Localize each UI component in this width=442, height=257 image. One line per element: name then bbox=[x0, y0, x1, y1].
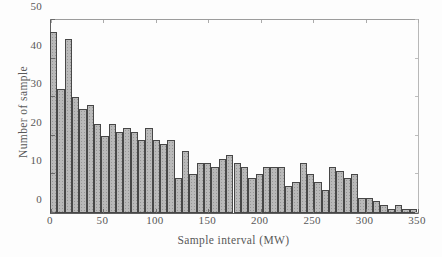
bars-container bbox=[51, 20, 418, 213]
x-tick-mark bbox=[366, 20, 367, 23]
histogram-bar bbox=[402, 209, 409, 213]
x-tick-label: 250 bbox=[303, 214, 320, 226]
y-tick-mark bbox=[415, 212, 418, 213]
x-tick-mark bbox=[51, 20, 52, 23]
x-tick-mark bbox=[313, 209, 314, 213]
x-tick-mark bbox=[418, 209, 419, 213]
histogram-bar bbox=[241, 167, 248, 213]
y-tick-label: 0 bbox=[36, 193, 42, 205]
y-axis-tick-labels: 01020304050 bbox=[0, 19, 46, 212]
x-tick-mark bbox=[418, 20, 419, 23]
x-tick-label: 100 bbox=[146, 214, 163, 226]
histogram-bar bbox=[57, 89, 64, 213]
x-tick-mark bbox=[208, 20, 209, 23]
histogram-bar bbox=[234, 163, 241, 213]
histogram-bar bbox=[307, 174, 314, 213]
y-tick-label: 20 bbox=[30, 116, 42, 128]
y-tick-label: 30 bbox=[30, 78, 42, 90]
x-tick-mark bbox=[156, 209, 157, 213]
histogram-bar bbox=[189, 174, 196, 213]
histogram-bar bbox=[160, 144, 167, 213]
y-tick-mark bbox=[415, 135, 418, 136]
x-tick-mark bbox=[261, 20, 262, 23]
x-tick-mark bbox=[313, 20, 314, 23]
y-tick-label: 10 bbox=[30, 155, 42, 167]
histogram-bar bbox=[123, 128, 130, 213]
x-axis-tick-labels: 050100150200250300350 bbox=[50, 214, 417, 228]
x-tick-label: 200 bbox=[251, 214, 268, 226]
y-tick-mark bbox=[51, 135, 55, 136]
y-tick-mark bbox=[415, 96, 418, 97]
histogram-bar bbox=[256, 174, 263, 213]
x-tick-mark bbox=[103, 209, 104, 213]
histogram-bar bbox=[131, 132, 138, 213]
histogram-bar bbox=[79, 109, 86, 213]
histogram-bar bbox=[175, 178, 182, 213]
histogram-bar bbox=[101, 136, 108, 213]
x-tick-mark bbox=[156, 20, 157, 23]
histogram-bar bbox=[344, 178, 351, 213]
y-tick-mark bbox=[415, 173, 418, 174]
histogram-bar bbox=[50, 32, 57, 213]
histogram-bar bbox=[167, 140, 174, 213]
x-tick-mark bbox=[366, 209, 367, 213]
x-tick-mark bbox=[208, 209, 209, 213]
y-tick-mark bbox=[51, 96, 55, 97]
histogram-bar bbox=[72, 97, 79, 213]
x-tick-mark bbox=[261, 209, 262, 213]
histogram-bar bbox=[322, 190, 329, 213]
histogram-bar bbox=[211, 167, 218, 213]
histogram-bar bbox=[138, 140, 145, 213]
y-tick-mark bbox=[415, 19, 418, 20]
histogram-bar bbox=[285, 186, 292, 213]
histogram-bar bbox=[380, 205, 387, 213]
x-tick-mark bbox=[103, 20, 104, 23]
plot-area bbox=[50, 19, 419, 214]
histogram-bar bbox=[153, 140, 160, 213]
histogram-bar bbox=[336, 171, 343, 213]
histogram-bar bbox=[300, 163, 307, 213]
histogram-bar bbox=[94, 124, 101, 213]
y-tick-mark bbox=[51, 19, 55, 20]
x-tick-label: 0 bbox=[47, 214, 53, 226]
x-tick-label: 350 bbox=[408, 214, 425, 226]
x-tick-label: 50 bbox=[97, 214, 109, 226]
y-tick-mark bbox=[415, 58, 418, 59]
histogram-bar bbox=[263, 167, 270, 213]
y-tick-label: 50 bbox=[30, 0, 42, 12]
histogram-bar bbox=[314, 182, 321, 213]
histogram-bar bbox=[219, 159, 226, 213]
y-tick-mark bbox=[51, 173, 55, 174]
x-axis-label: Sample interval (MW) bbox=[50, 234, 417, 246]
histogram-bar bbox=[197, 163, 204, 213]
histogram-bar bbox=[116, 132, 123, 213]
histogram-bar bbox=[145, 128, 152, 213]
histogram-bar bbox=[204, 163, 211, 213]
y-tick-mark bbox=[51, 58, 55, 59]
histogram-bar bbox=[65, 39, 72, 213]
y-tick-label: 40 bbox=[30, 39, 42, 51]
histogram-bar bbox=[292, 182, 299, 213]
histogram-bar bbox=[366, 198, 373, 213]
histogram-bar bbox=[358, 198, 365, 213]
x-tick-label: 300 bbox=[356, 214, 373, 226]
x-tick-label: 150 bbox=[199, 214, 216, 226]
histogram-bar bbox=[388, 209, 395, 213]
y-tick-mark bbox=[51, 212, 55, 213]
histogram-bar bbox=[182, 151, 189, 213]
histogram-bar bbox=[395, 205, 402, 213]
histogram-bar bbox=[278, 167, 285, 213]
histogram-figure: Number of sample 050100150200250300350 0… bbox=[0, 0, 442, 257]
histogram-bar bbox=[248, 178, 255, 213]
histogram-bar bbox=[373, 201, 380, 213]
histogram-bar bbox=[329, 167, 336, 213]
histogram-bar bbox=[226, 155, 233, 213]
histogram-bar bbox=[270, 167, 277, 213]
histogram-bar bbox=[87, 105, 94, 213]
histogram-bar bbox=[351, 174, 358, 213]
histogram-bar bbox=[109, 124, 116, 213]
